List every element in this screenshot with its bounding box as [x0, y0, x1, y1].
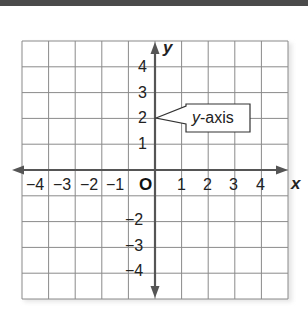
- y-tick-label: 3: [138, 85, 147, 101]
- y-tick-label: −2: [125, 212, 143, 228]
- x-tick-label: 1: [177, 177, 186, 193]
- x-tick-label: 3: [229, 177, 238, 193]
- y-tick-label: −3: [125, 238, 143, 254]
- x-tick-label: −2: [80, 177, 98, 193]
- x-tick-label: 4: [256, 177, 265, 193]
- x-tick-label: −1: [106, 177, 124, 193]
- x-tick-label: −3: [53, 177, 71, 193]
- y-tick-label: −4: [125, 263, 143, 279]
- y-tick-label: 1: [138, 136, 147, 152]
- x-tick-label: −4: [26, 177, 44, 193]
- x-tick-label: 2: [203, 177, 212, 193]
- x-axis-left-arrow-icon: [12, 166, 24, 175]
- x-axis-name: x: [291, 176, 300, 192]
- y-tick-label: 4: [138, 59, 147, 75]
- y-axis-name: y: [163, 40, 172, 56]
- origin-label: O: [139, 177, 152, 193]
- y-tick-label: 2: [138, 110, 147, 126]
- callout-label: y-axis: [192, 110, 234, 126]
- callout-label-italic: y: [192, 109, 200, 126]
- coordinate-plane: [0, 0, 308, 316]
- callout-label-rest: -axis: [200, 109, 234, 126]
